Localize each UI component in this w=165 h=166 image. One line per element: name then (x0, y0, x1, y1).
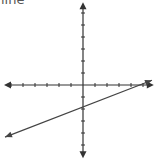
arrow-up-icon (80, 2, 87, 9)
plotted-line (5, 80, 152, 137)
line-arrow-start-icon (5, 132, 13, 138)
coordinate-plane (0, 0, 165, 166)
graph-line (5, 80, 152, 137)
axes (4, 2, 154, 158)
arrow-left-icon (4, 82, 11, 89)
arrow-down-icon (80, 151, 87, 158)
